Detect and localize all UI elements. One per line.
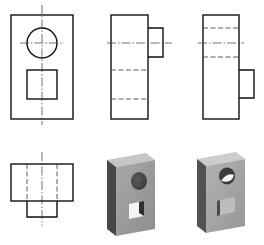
isometric-model-a bbox=[107, 153, 155, 236]
model-a-side-face bbox=[107, 160, 116, 236]
side-view-b-outline bbox=[203, 15, 239, 119]
side-view-a-tab bbox=[148, 28, 163, 57]
model-a-round-hole bbox=[131, 172, 147, 190]
side-view-b bbox=[198, 15, 254, 119]
model-b-square-boss-face bbox=[220, 197, 235, 215]
model-a-front-face bbox=[116, 160, 155, 236]
model-b-side-face bbox=[197, 159, 206, 233]
side-view-b-tab bbox=[239, 70, 254, 98]
side-view-a bbox=[107, 15, 172, 119]
isometric-model-b bbox=[197, 152, 245, 233]
side-view-a-outline bbox=[111, 15, 148, 119]
front-view bbox=[11, 5, 73, 125]
projection-drawing bbox=[0, 0, 264, 245]
bottom-view bbox=[11, 152, 73, 226]
model-b-square-boss-side bbox=[217, 200, 220, 216]
